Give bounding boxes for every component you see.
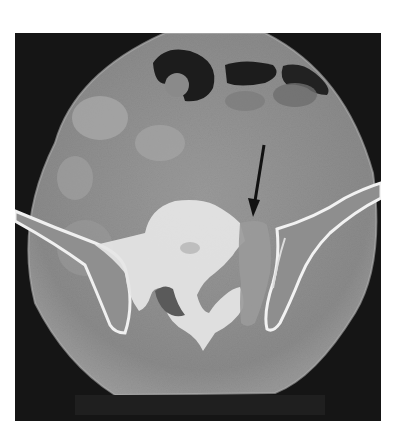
bowel-contents xyxy=(225,91,265,111)
bowel-contents xyxy=(273,83,317,107)
bowel-loop xyxy=(72,96,128,140)
bowel-loop xyxy=(135,125,185,161)
bowel-contents xyxy=(165,73,189,97)
bowel-loop xyxy=(57,156,93,200)
scanner-table xyxy=(75,395,325,415)
ct-scan-image xyxy=(15,33,381,421)
sacral-foramen xyxy=(180,242,200,254)
